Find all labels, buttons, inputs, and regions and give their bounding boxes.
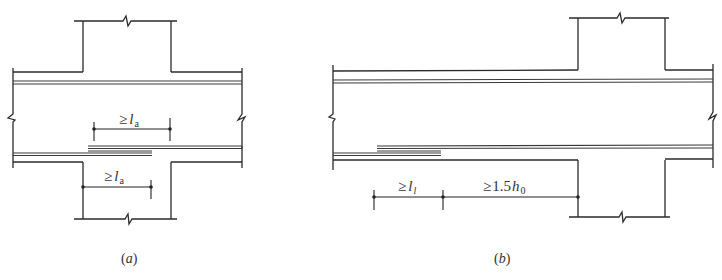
bottom-column-a: [74, 162, 177, 224]
rebar-lap-splice-diagram: ≥la ≥la (a): [0, 0, 722, 280]
bottom-column-b: [569, 160, 670, 222]
top-rebar-b: [333, 79, 713, 83]
caption-a: (a): [121, 251, 138, 267]
caption-b: (b): [494, 251, 511, 267]
dimension-label: ≥la: [104, 168, 124, 186]
panel-a: ≥la ≥la (a): [8, 16, 245, 267]
dimension-anchor-length-a: ≥la: [81, 168, 153, 199]
dimension-chain-b: ≥ll ≥1.5h0: [372, 178, 580, 210]
dimension-label-lap: ≥ll: [398, 178, 416, 196]
dimension-label-offset: ≥1.5h0: [483, 178, 525, 196]
bottom-rebar-lap-b: [333, 145, 713, 156]
bottom-rebar-lap-a: [13, 146, 242, 156]
dimension-label: ≥la: [119, 111, 139, 129]
top-column-a: [74, 16, 177, 72]
dimension-lap-length-a: ≥la: [92, 111, 172, 141]
panel-b: ≥ll ≥1.5h0 (b): [329, 13, 716, 267]
top-column-b: [569, 13, 669, 70]
top-rebar-a: [13, 81, 242, 84]
